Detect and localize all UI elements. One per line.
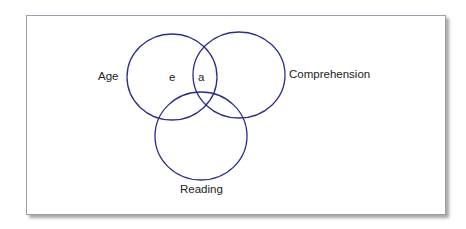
comprehension-label: Comprehension	[289, 68, 370, 80]
reading-label: Reading	[180, 183, 223, 195]
age-label: Age	[98, 70, 118, 82]
region-a-label: a	[198, 71, 204, 83]
comprehension-circle	[193, 32, 285, 118]
region-e-label: e	[169, 71, 175, 83]
reading-circle	[155, 92, 247, 180]
venn-diagram	[0, 0, 466, 229]
